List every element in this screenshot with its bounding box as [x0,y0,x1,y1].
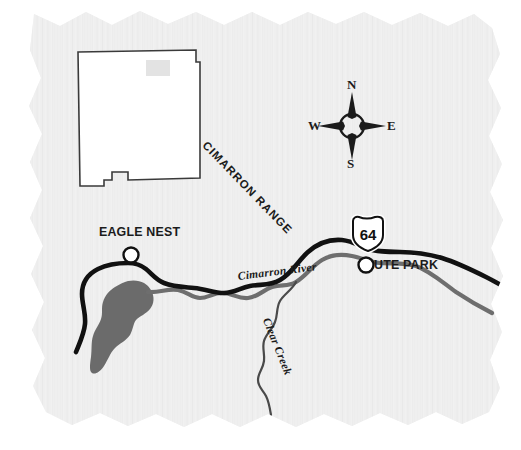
map-graphics: 64 [0,0,521,450]
label-eagle-nest: EAGLE NEST [99,224,180,239]
eagle-nest-marker[interactable] [124,248,139,263]
compass-label-south: S [347,156,354,172]
us-64-shield[interactable]: 64 [353,217,383,251]
ute-park-marker[interactable] [359,258,374,273]
compass-label-north: N [347,77,356,93]
label-ute-park: UTE PARK [374,257,438,272]
inset-area-marker [146,60,170,76]
new-mexico-inset [78,50,200,186]
new-mexico-outline [78,50,200,186]
compass-label-east: E [387,118,396,134]
map-canvas: 64 EAGLE NEST UTE PARK CIMARRON RANGE Ci… [0,0,521,450]
us-64-shield-number: 64 [360,226,377,243]
compass-label-west: W [308,118,321,134]
